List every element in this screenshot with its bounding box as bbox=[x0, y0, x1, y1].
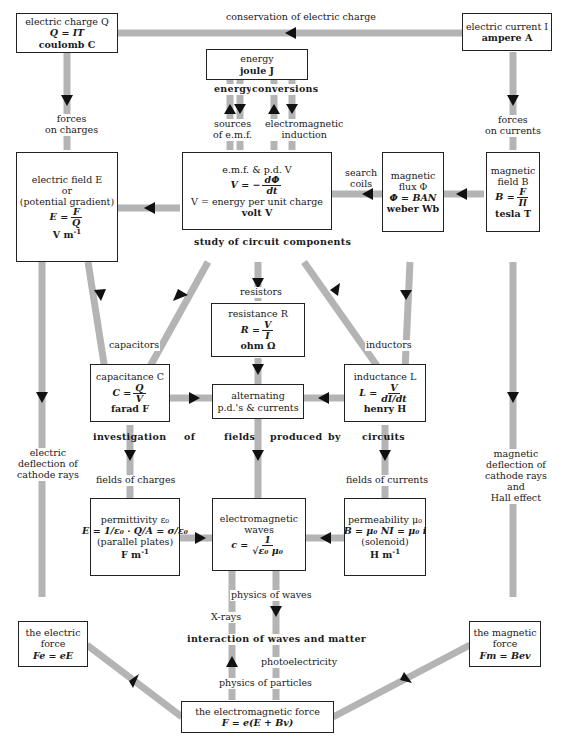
sources-line2: of e.m.f. bbox=[213, 129, 252, 140]
investigation-word-1: investigation bbox=[92, 432, 167, 443]
permeability-name: permeability μ₀ bbox=[348, 514, 422, 525]
emforce-formula: F = e(E + Bv) bbox=[222, 717, 294, 728]
x-rays-label: X-rays bbox=[210, 612, 242, 623]
fields-of-currents-label: fields of currents bbox=[345, 475, 429, 486]
flux-unit: weber Wb bbox=[387, 203, 440, 214]
emf-pd-box: e.m.f. & p.d. V V = −dΦdt V = energy per… bbox=[182, 152, 332, 230]
capacitance-name: capacitance C bbox=[96, 371, 164, 382]
search-coils-label: search coils bbox=[344, 168, 378, 190]
bfield-formula-lhs: B = bbox=[495, 191, 514, 202]
mforce-line2: force bbox=[493, 638, 518, 649]
flux-line1: magnetic bbox=[391, 170, 436, 181]
resistance-formula-lhs: R = bbox=[241, 324, 260, 335]
induction-line2: induction bbox=[281, 129, 326, 140]
investigation-word-5: by bbox=[327, 432, 342, 443]
permeability-unit-exp: -1 bbox=[392, 547, 400, 556]
bfield-unit: tesla T bbox=[495, 208, 531, 219]
bfield-den: Il bbox=[517, 198, 529, 208]
electric-charge-box: electric charge Q Q = IT coulomb C bbox=[16, 13, 118, 53]
investigation-word-6: circuits bbox=[361, 432, 406, 443]
emf-def: V = energy per unit charge bbox=[191, 196, 323, 207]
forces-charges-line1: forces bbox=[57, 113, 87, 124]
permeability-box: permeability μ₀ B = μ₀ NI = μ₀ i (soleno… bbox=[344, 498, 426, 576]
current-name: electric current I bbox=[466, 21, 548, 32]
em-induction-label: electromagnetic induction bbox=[264, 119, 344, 141]
search-line1: search bbox=[345, 167, 377, 178]
resistance-unit: ohm Ω bbox=[240, 340, 275, 351]
sources-line1: sources bbox=[214, 118, 251, 129]
electric-field-box: electric field E or (potential gradient)… bbox=[16, 152, 118, 262]
emforce-name: the electromagnetic force bbox=[195, 706, 320, 717]
forces-charges-line2: on charges bbox=[45, 124, 98, 135]
mforce-formula: Fm = Bev bbox=[480, 650, 531, 661]
energy-box: energy joule J bbox=[206, 49, 308, 80]
mdeflect-line4: and bbox=[507, 481, 525, 492]
charge-name: electric charge Q bbox=[25, 16, 109, 27]
inductance-formula-lhs: L = bbox=[359, 387, 377, 398]
electric-current-box: electric current I ampere A bbox=[462, 13, 552, 51]
eforce-line1: the electric bbox=[26, 627, 81, 638]
investigation-word-2: of bbox=[183, 432, 196, 443]
eforce-line2: force bbox=[41, 638, 66, 649]
permittivity-formula: E = 1/ε₀ · Q/A = σ/ε₀ bbox=[82, 525, 188, 536]
mdeflect-line5: Hall effect bbox=[491, 492, 541, 503]
field-formula-lhs: E = bbox=[50, 211, 69, 222]
induction-line1: electromagnetic bbox=[265, 118, 343, 129]
alternating-pd-box: alternating p.d.'s & currents bbox=[212, 384, 304, 419]
fields-of-charges-label: fields of charges bbox=[95, 475, 176, 486]
permittivity-box: permittivity ε₀ E = 1/ε₀ · Q/A = σ/ε₀ (p… bbox=[90, 498, 180, 576]
inductance-box: inductance L L =VdI/dt henry H bbox=[344, 364, 426, 422]
physics-of-waves-label: physics of waves bbox=[230, 590, 313, 601]
permeability-note: (solenoid) bbox=[361, 536, 409, 547]
energy-conversions-label-a: energy bbox=[213, 84, 253, 95]
edeflect-line2: deflection of bbox=[18, 458, 78, 469]
capacitance-unit: farad F bbox=[111, 403, 149, 414]
permittivity-unit-exp: -1 bbox=[141, 547, 149, 556]
capacitors-label: capacitors bbox=[108, 340, 160, 351]
resistance-num: V bbox=[262, 320, 273, 331]
emf-name: e.m.f. & p.d. V bbox=[222, 164, 291, 175]
search-line2: coils bbox=[350, 178, 372, 189]
resistance-den: I bbox=[263, 331, 271, 341]
edeflect-line3: cathode rays bbox=[17, 469, 79, 480]
conservation-label: conservation of electric charge bbox=[225, 12, 377, 23]
permittivity-name: permittivity ε₀ bbox=[101, 514, 169, 525]
edeflect-line1: electric bbox=[30, 447, 66, 458]
field-or: or bbox=[62, 185, 72, 196]
emwaves-formula-lhs: c = bbox=[231, 539, 248, 550]
study-circuit-components-label: study of circuit components bbox=[193, 237, 352, 248]
investigation-word-4: produced bbox=[269, 432, 323, 443]
emwaves-den: √ε₀ μ₀ bbox=[250, 546, 285, 556]
field-alt: (potential gradient) bbox=[20, 196, 114, 207]
capacitance-formula-lhs: C = bbox=[112, 387, 131, 398]
mforce-line1: the magnetic bbox=[473, 627, 536, 638]
charge-formula: Q = IT bbox=[50, 27, 84, 38]
emf-den: dt bbox=[264, 186, 279, 196]
investigation-word-3: fields bbox=[223, 432, 256, 443]
current-unit: ampere A bbox=[482, 32, 533, 43]
photoelectricity-label: photoelectricity bbox=[260, 657, 338, 668]
energy-name: energy bbox=[240, 53, 273, 64]
field-unit: V m bbox=[53, 229, 74, 240]
forces-on-currents-label: forces on currents bbox=[484, 115, 542, 137]
magnetic-field-box: magnetic field B B =FIl tesla T bbox=[486, 152, 540, 232]
electric-force-box: the electric force Fe = eE bbox=[18, 621, 88, 667]
magnetic-deflection-label: magnetic deflection of cathode rays and … bbox=[484, 449, 548, 504]
resistance-box: resistance R R =VI ohm Ω bbox=[211, 303, 305, 357]
permittivity-unit: F m bbox=[121, 549, 141, 560]
sources-emf-label: sources of e.m.f. bbox=[212, 119, 253, 141]
capacitance-box: capacitance C C =QV farad F bbox=[90, 364, 170, 422]
interaction-label: interaction of waves and matter bbox=[186, 634, 367, 645]
flux-formula: Φ = BAN bbox=[390, 192, 437, 203]
inductance-num: V bbox=[388, 383, 399, 394]
permeability-unit: H m bbox=[370, 549, 392, 560]
magnetic-force-box: the magnetic force Fm = Bev bbox=[469, 621, 541, 667]
electric-deflection-label: electric deflection of cathode rays bbox=[16, 448, 80, 481]
capacitance-den: V bbox=[134, 394, 145, 404]
emwaves-line1: electromagnetic bbox=[220, 513, 298, 524]
forces-currents-line2: on currents bbox=[485, 125, 541, 136]
permeability-formula: B = μ₀ NI = μ₀ i bbox=[344, 525, 427, 536]
mdeflect-line1: magnetic bbox=[494, 448, 539, 459]
bfield-line1: magnetic bbox=[491, 165, 536, 176]
resistors-label: resistors bbox=[239, 287, 283, 298]
